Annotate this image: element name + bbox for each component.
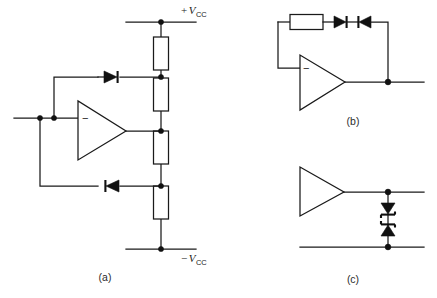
zener-c-upper-triangle xyxy=(381,203,395,214)
diode-a-upper-triangle xyxy=(104,71,117,83)
resistor-a2 xyxy=(154,78,169,111)
label-vcc-negative: −VCC xyxy=(181,252,207,267)
circuit-b: − (b) xyxy=(278,15,424,128)
label-vcc-negative-sign: − xyxy=(181,252,187,264)
node-a-positive-rail xyxy=(158,19,163,24)
node-a-input-lower xyxy=(37,115,42,120)
label-vcc-positive: +VCC xyxy=(181,4,207,19)
opamp-b-inverting-sign: − xyxy=(303,62,309,74)
diode-a-lower-triangle xyxy=(106,180,119,192)
resistor-a4 xyxy=(154,186,169,219)
caption-c: (c) xyxy=(347,273,359,285)
diode-b-right xyxy=(358,16,371,28)
node-a-input-upper xyxy=(51,115,56,120)
diode-b-left xyxy=(334,16,347,28)
node-a-r1-r2 xyxy=(158,74,163,79)
node-a-negative-rail xyxy=(158,246,163,251)
circuit-a: − +VCC −VCC (a) xyxy=(14,4,207,283)
resistor-a1 xyxy=(154,37,169,70)
resistor-b1 xyxy=(290,15,323,30)
node-a-r3-r4 xyxy=(158,183,163,188)
label-vcc-negative-sub: CC xyxy=(196,258,207,267)
circuit-diagram-svg: − +VCC −VCC (a) xyxy=(0,0,437,298)
wire-b-feedback-right xyxy=(371,22,388,82)
caption-b: (b) xyxy=(347,115,360,127)
label-vcc-positive-sign: + xyxy=(181,4,187,16)
zener-c-lower-triangle xyxy=(381,225,395,236)
diode-a-upper xyxy=(104,71,118,83)
node-a-output xyxy=(158,128,163,133)
figure-container: − +VCC −VCC (a) xyxy=(0,0,437,298)
label-vcc-positive-sub: CC xyxy=(196,10,207,19)
opamp-c xyxy=(300,167,344,216)
diode-a-lower xyxy=(105,180,119,192)
opamp-a xyxy=(78,101,126,160)
diode-b-right-triangle xyxy=(359,16,371,28)
caption-a: (a) xyxy=(99,271,112,283)
resistor-a3 xyxy=(154,131,169,164)
diode-b-left-triangle xyxy=(334,16,346,28)
node-c-ground xyxy=(385,244,391,250)
node-c-output xyxy=(385,189,391,195)
circuit-c: (c) xyxy=(300,167,424,285)
opamp-a-inverting-sign: − xyxy=(82,112,88,124)
node-b-output xyxy=(385,79,391,85)
